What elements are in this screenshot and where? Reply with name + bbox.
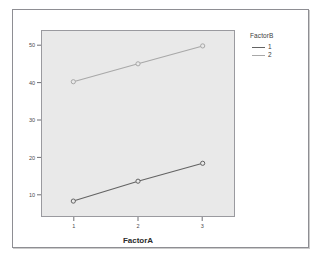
- legend: FactorB 1 2: [248, 32, 306, 59]
- y-axis: 50 40 30 20 10: [29, 42, 41, 198]
- series-line-1: [71, 161, 205, 203]
- legend-item-2: 2: [252, 51, 306, 59]
- data-point: [136, 179, 140, 183]
- x-axis-title: FactorA: [123, 236, 153, 245]
- x-tick-label-3: 3: [201, 223, 204, 229]
- series-line-2: [71, 44, 205, 84]
- series-2-markers: [71, 44, 205, 84]
- data-point: [136, 62, 140, 66]
- y-tick-label-30: 30: [29, 117, 35, 123]
- chart-area: 50 40 30 20 10 1 2 3 FactorA: [13, 10, 310, 249]
- legend-title: FactorB: [250, 32, 306, 39]
- x-tick-label-2: 2: [136, 223, 139, 229]
- screenshot-root: 50 40 30 20 10 1 2 3 FactorA: [0, 0, 322, 264]
- y-tick-label-20: 20: [29, 155, 35, 161]
- data-point: [201, 161, 205, 165]
- legend-label-1: 1: [268, 43, 272, 51]
- y-tick-label-10: 10: [29, 192, 35, 198]
- legend-swatch-2: [252, 55, 265, 56]
- x-axis: 1 2 3 FactorA: [72, 217, 203, 245]
- legend-item-1: 1: [252, 43, 306, 51]
- series-1-markers: [71, 161, 205, 203]
- data-point: [201, 44, 205, 48]
- legend-swatch-1: [252, 47, 265, 48]
- y-tick-label-50: 50: [29, 42, 35, 48]
- figure-frame: 50 40 30 20 10 1 2 3 FactorA: [12, 9, 309, 248]
- y-tick-label-40: 40: [29, 80, 35, 86]
- legend-label-2: 2: [268, 51, 272, 59]
- data-point: [71, 80, 75, 84]
- x-tick-label-1: 1: [72, 223, 75, 229]
- data-point: [71, 199, 75, 203]
